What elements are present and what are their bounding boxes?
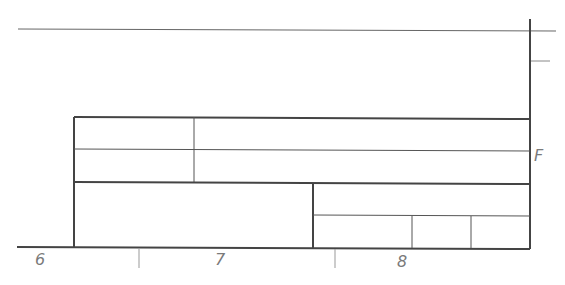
- title-block: [74, 117, 530, 248]
- zone-label-F: F: [534, 148, 543, 164]
- top-frame-line: [18, 29, 556, 31]
- zone-label-7: 7: [215, 252, 225, 268]
- title-block-drawing: [0, 0, 565, 285]
- zone-label-6: 6: [35, 252, 45, 268]
- zone-label-8: 8: [397, 254, 407, 270]
- bottom-border-line: [17, 247, 530, 249]
